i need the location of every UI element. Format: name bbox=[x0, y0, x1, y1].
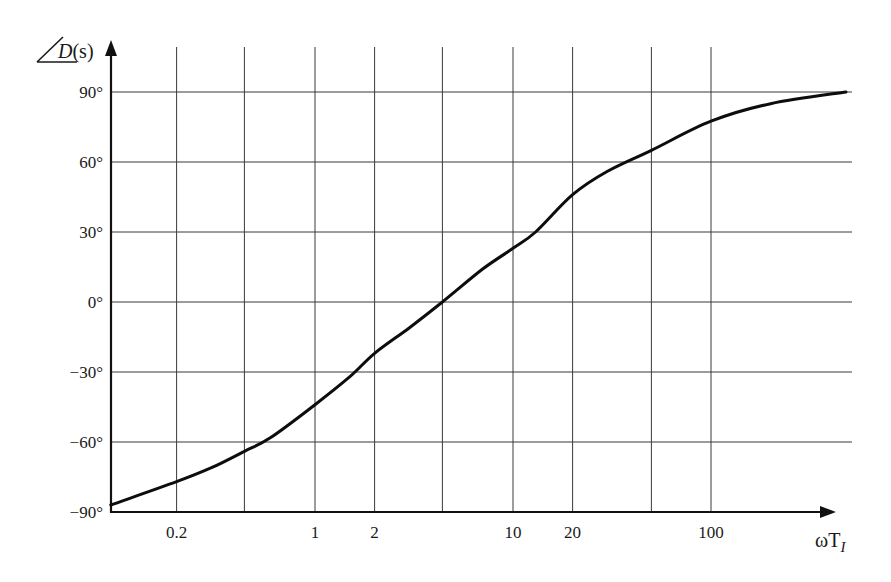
y-tick-label: 0° bbox=[88, 293, 103, 312]
phase-curve bbox=[111, 92, 846, 505]
y-axis-arrow-icon bbox=[105, 40, 117, 56]
x-tick-label: 0.2 bbox=[166, 523, 187, 542]
x-axis-title-main: ωT bbox=[815, 529, 840, 551]
x-tick-label: 100 bbox=[698, 523, 724, 542]
y-tick-label: −90° bbox=[70, 503, 103, 522]
y-tick-label: 30° bbox=[79, 223, 103, 242]
x-tick-labels: 0.2121020100 bbox=[166, 523, 724, 542]
y-tick-label: 60° bbox=[79, 153, 103, 172]
y-tick-label: 90° bbox=[79, 83, 103, 102]
x-tick-label: 10 bbox=[505, 523, 522, 542]
horizontal-gridlines bbox=[111, 92, 852, 442]
x-axis-arrow-icon bbox=[820, 506, 836, 518]
bode-phase-chart: 90°60°30°0°−30°−60°−90° 0.2121020100 D(s… bbox=[0, 0, 891, 582]
y-tick-labels: 90°60°30°0°−30°−60°−90° bbox=[70, 83, 103, 522]
x-axis-title: ωTI bbox=[815, 529, 846, 555]
y-tick-label: −60° bbox=[70, 433, 103, 452]
y-axis-title-func: D bbox=[57, 40, 73, 62]
y-axis-title: D(s) bbox=[37, 37, 94, 63]
svg-text:D(s): D(s) bbox=[57, 40, 94, 63]
y-axis-title-arg: (s) bbox=[72, 40, 93, 63]
y-tick-label: −30° bbox=[70, 363, 103, 382]
x-tick-label: 1 bbox=[311, 523, 320, 542]
x-axis-title-subscript: I bbox=[839, 539, 846, 555]
x-tick-label: 20 bbox=[564, 523, 581, 542]
x-tick-label: 2 bbox=[370, 523, 379, 542]
